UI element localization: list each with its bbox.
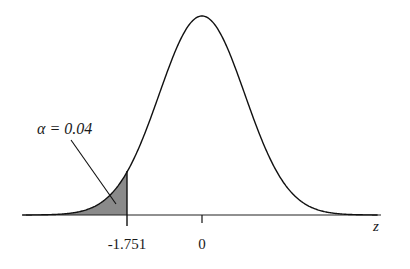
annotation-pointer [71, 140, 116, 204]
zero-label: 0 [198, 236, 206, 252]
critical-value-label: -1.751 [108, 236, 147, 252]
z-axis-label: z [372, 218, 379, 234]
alpha-annotation: α = 0.04 [37, 120, 92, 137]
normal-curve [22, 16, 378, 215]
normal-distribution-chart: α = 0.04 -1.751 0 z [0, 0, 410, 269]
